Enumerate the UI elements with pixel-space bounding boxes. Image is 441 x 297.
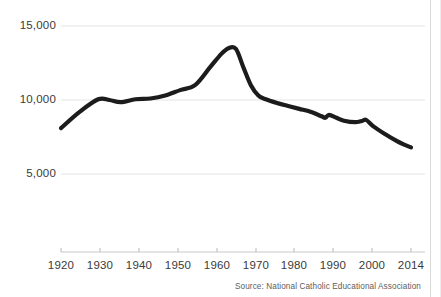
ytick-label-10000: 10,000 [4,93,56,105]
line-chart-plot [0,0,441,297]
xtick-label-2014: 2014 [386,259,436,271]
data-series-line [61,47,411,147]
ytick-label-5000: 5,000 [4,167,56,179]
x-axis [61,248,425,252]
chart-container: 15,000 10,000 5,000 1920 1930 1940 1950 … [0,0,441,297]
source-attribution: Source: National Catholic Educational As… [0,282,421,291]
ytick-label-15000: 15,000 [4,19,56,31]
